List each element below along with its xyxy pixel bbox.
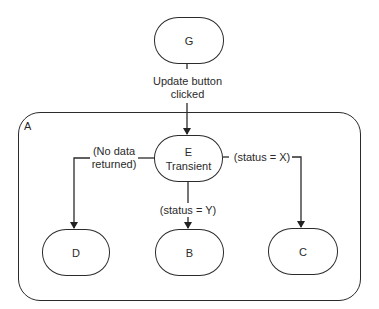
edge-e-to-c-label: (status = X)	[232, 151, 292, 164]
node-g: G	[154, 17, 224, 64]
edge-e-to-d-label-line1: (No data	[90, 145, 138, 158]
node-d: D	[42, 229, 110, 276]
node-b: B	[155, 229, 224, 276]
node-e: E Transient	[154, 135, 223, 182]
edge-e-to-b-label: (status = Y)	[158, 204, 218, 217]
edge-e-to-c	[292, 157, 301, 227]
edge-e-to-d	[74, 158, 90, 228]
edge-g-to-e-label-line1: Update button	[150, 75, 225, 88]
node-c: C	[268, 228, 338, 275]
edge-g-to-e-label-line2: clicked	[150, 88, 225, 101]
node-c-label: C	[299, 245, 307, 259]
node-g-label: G	[185, 34, 194, 48]
node-e-label: E	[185, 145, 192, 159]
edge-e-to-d-label-line2: returned)	[90, 158, 138, 171]
node-d-label: D	[72, 246, 80, 260]
node-e-sublabel: Transient	[166, 159, 211, 173]
edge-g-to-e-label: Update button clicked	[150, 75, 225, 101]
edge-e-to-d-label: (No data returned)	[90, 145, 138, 171]
node-b-label: B	[186, 246, 193, 260]
